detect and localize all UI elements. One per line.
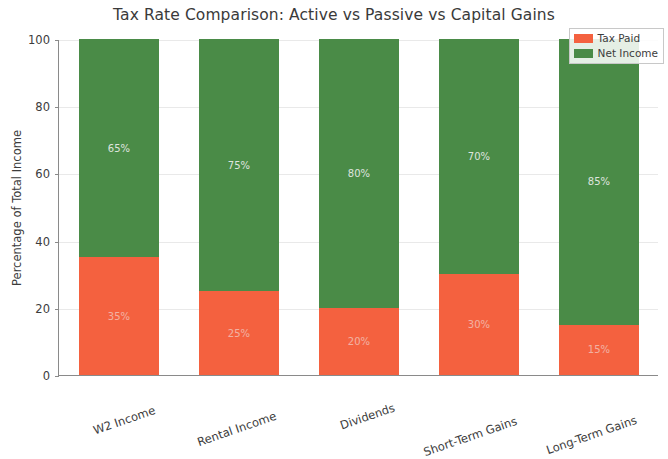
y-tick-mark <box>55 107 59 108</box>
y-tick-mark <box>55 376 59 377</box>
bar-value-label: 65% <box>108 143 130 154</box>
bar-segment[interactable]: 85% <box>559 39 638 325</box>
chart-title: Tax Rate Comparison: Active vs Passive v… <box>0 6 668 24</box>
x-tick-label: Short-Term Gains <box>422 414 519 459</box>
x-tick-label: Rental Income <box>195 409 278 449</box>
bar-group[interactable]: 25%75% <box>199 39 278 375</box>
bar-segment[interactable]: 65% <box>79 39 158 257</box>
bar-segment[interactable]: 15% <box>559 325 638 375</box>
bar-segment[interactable]: 20% <box>319 308 398 375</box>
bar-value-label: 15% <box>588 344 610 355</box>
bar-value-label: 35% <box>108 311 130 322</box>
bar-segment[interactable]: 70% <box>439 39 518 274</box>
y-tick-label: 20 <box>2 302 50 316</box>
bar-value-label: 25% <box>228 328 250 339</box>
bar-segment[interactable]: 75% <box>199 39 278 291</box>
bar-value-label: 30% <box>468 319 490 330</box>
legend-swatch <box>574 49 593 58</box>
x-tick-label: Dividends <box>338 401 396 433</box>
bar-value-label: 70% <box>468 151 490 162</box>
bar-value-label: 75% <box>228 160 250 171</box>
legend-item[interactable]: Tax Paid <box>574 32 658 44</box>
y-tick-mark <box>55 174 59 175</box>
bar-value-label: 85% <box>588 176 610 187</box>
legend-label: Tax Paid <box>598 32 641 44</box>
x-tick-label: Long-Term Gains <box>544 413 638 457</box>
bar-segment[interactable]: 25% <box>199 291 278 375</box>
bar-group[interactable]: 30%70% <box>439 39 518 375</box>
plot-area: 020406080100 Percentage of Total Income … <box>58 40 658 376</box>
bar-group[interactable]: 20%80% <box>319 39 398 375</box>
legend-item[interactable]: Net Income <box>574 47 658 59</box>
bar-segment[interactable]: 30% <box>439 274 518 375</box>
y-tick-label: 80 <box>2 100 50 114</box>
x-tick-label: W2 Income <box>91 403 157 437</box>
bar-value-label: 80% <box>348 168 370 179</box>
y-tick-label: 0 <box>2 369 50 383</box>
bar-group[interactable]: 35%65% <box>79 39 158 375</box>
legend-label: Net Income <box>598 47 658 59</box>
chart-legend: Tax PaidNet Income <box>569 28 664 64</box>
y-tick-mark <box>55 309 59 310</box>
bar-value-label: 20% <box>348 336 370 347</box>
y-tick-label: 100 <box>2 33 50 47</box>
y-tick-mark <box>55 242 59 243</box>
bar-segment[interactable]: 80% <box>319 39 398 308</box>
bar-group[interactable]: 15%85% <box>559 39 638 375</box>
y-tick-mark <box>55 40 59 41</box>
legend-swatch <box>574 34 593 43</box>
bar-segment[interactable]: 35% <box>79 257 158 375</box>
y-axis-label: Percentage of Total Income <box>10 130 24 286</box>
